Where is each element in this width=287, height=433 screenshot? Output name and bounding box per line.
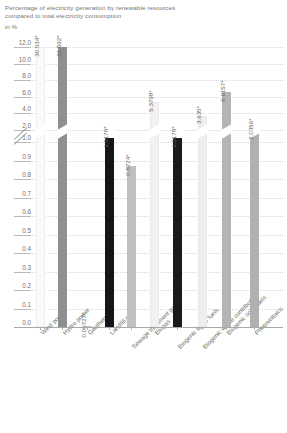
y-axis-label: 0.3: [13, 264, 31, 271]
bar-break-marker: [57, 124, 68, 139]
bar[interactable]: 2.0356*: [250, 130, 259, 327]
bar-value-label: 21.592*: [54, 35, 63, 56]
y-axis-label: 0.9: [13, 153, 31, 160]
y-axis-tick: [14, 198, 31, 199]
bar-value-label: 1.0178*: [101, 126, 110, 147]
bar-break-marker: [221, 124, 232, 139]
y-axis-tick: [14, 290, 31, 291]
plot-area: 0.00.10.20.30.40.50.60.70.80.91.02.04.06…: [0, 0, 287, 433]
y-axis-tick: [14, 113, 31, 114]
bar-value-label: 5.3798*: [146, 90, 155, 111]
bar-value-label: 0.8724*: [123, 154, 132, 175]
y-axis-label: 0.7: [13, 190, 31, 197]
bar[interactable]: 5.3798*: [150, 102, 159, 327]
x-axis-baseline: [14, 327, 283, 328]
y-axis-label: 0.8: [13, 171, 31, 178]
bar[interactable]: 1.0178*: [173, 138, 182, 327]
y-axis-label: 0.0: [13, 319, 31, 326]
bar-value-label: 1.0178*: [169, 126, 178, 147]
bar[interactable]: 30.534*: [36, 47, 45, 327]
y-axis-tick: [14, 179, 31, 180]
y-axis-break-icon: [13, 128, 33, 142]
bar-break-marker: [149, 124, 160, 139]
y-axis-tick: [14, 64, 31, 65]
bar[interactable]: 21.592*: [58, 47, 67, 327]
y-axis-label: 6.0: [13, 89, 31, 96]
y-axis-label: 0.4: [13, 245, 31, 252]
bar-break-marker: [35, 124, 46, 139]
y-axis-tick: [14, 309, 31, 310]
gridline: [30, 47, 283, 48]
y-axis-tick: [14, 161, 31, 162]
y-axis-tick: [14, 272, 31, 273]
gridline: [30, 97, 283, 98]
bar-value-label: 3.635*: [194, 106, 203, 124]
y-axis-label: 8.0: [13, 72, 31, 79]
y-axis-tick: [14, 253, 31, 254]
y-axis-tick: [14, 97, 31, 98]
y-axis-tick: [14, 47, 31, 48]
y-axis-label: 12.0: [13, 39, 31, 46]
bar[interactable]: 1.0178*: [105, 138, 114, 327]
y-axis-label: 0.1: [13, 301, 31, 308]
bar[interactable]: 0.8724*: [127, 166, 136, 327]
gridline: [30, 64, 283, 65]
y-axis-label: 0.2: [13, 282, 31, 289]
y-axis-tick: [14, 80, 31, 81]
y-axis-tick: [14, 216, 31, 217]
y-axis-label: 0.5: [13, 227, 31, 234]
bar[interactable]: 3.635*: [198, 116, 207, 327]
bar-value-label: 2.0356*: [246, 118, 255, 139]
bar-break-marker: [197, 124, 208, 139]
y-axis-label: 10.0: [13, 56, 31, 63]
bar-value-label: 0.00727*: [79, 312, 88, 337]
bar-value-label: 6.6157*: [218, 80, 227, 101]
gridline: [30, 80, 283, 81]
y-axis-label: 0.6: [13, 208, 31, 215]
y-axis-tick: [14, 235, 31, 236]
y-axis-label: 4.0: [13, 105, 31, 112]
bar[interactable]: 6.6157*: [222, 92, 231, 327]
chart-page: Percentage of electricity generation by …: [0, 0, 287, 433]
bar-value-label: 30.534*: [32, 35, 41, 56]
